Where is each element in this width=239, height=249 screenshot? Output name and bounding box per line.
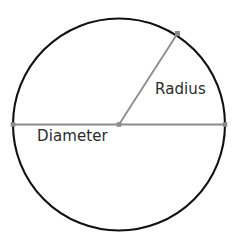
diameter-right-endpoint-dot <box>223 122 228 127</box>
radius-endpoint-dot <box>175 31 180 36</box>
diameter-label: Diameter <box>37 127 109 145</box>
radius-label: Radius <box>155 80 206 98</box>
circle-diagram-container: Radius Diameter <box>0 0 239 249</box>
circle-center-dot <box>117 122 122 127</box>
diameter-left-endpoint-dot <box>11 122 16 127</box>
circle-diagram-canvas: Radius Diameter <box>0 0 239 249</box>
